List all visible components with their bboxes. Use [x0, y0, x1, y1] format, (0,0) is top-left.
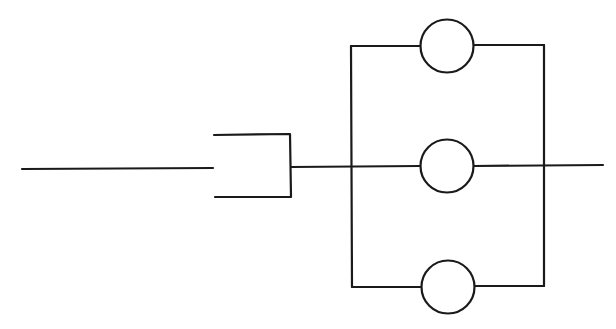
circuit-diagram	[0, 0, 616, 329]
circle-bottom-element	[422, 261, 475, 314]
bracket-to-network-wire	[291, 166, 420, 167]
input-wire	[22, 168, 213, 169]
bracket-connector	[214, 134, 291, 197]
left-bus	[351, 46, 352, 287]
circle-middle-element	[421, 140, 474, 193]
circle-top-element	[421, 20, 474, 73]
output-wire	[474, 165, 603, 166]
